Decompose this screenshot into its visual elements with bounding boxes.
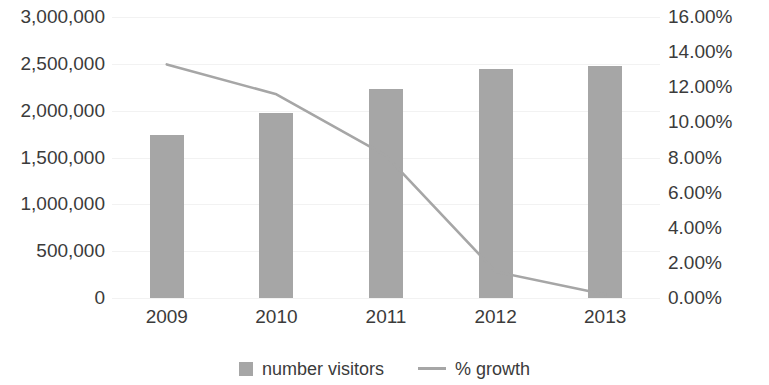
category-tick-label: 2010 xyxy=(216,306,336,328)
legend-label: number visitors xyxy=(262,359,384,379)
category-tick-label: 2011 xyxy=(326,306,446,328)
growth-line-path xyxy=(167,64,605,294)
legend-entry[interactable]: number visitors xyxy=(239,359,384,379)
line-series-percent-growth xyxy=(0,0,769,320)
combo-chart: 3,000,0002,500,0002,000,0001,500,0001,00… xyxy=(0,0,769,385)
legend-label: % growth xyxy=(455,359,530,379)
category-tick-label: 2009 xyxy=(107,306,227,328)
category-tick-label: 2013 xyxy=(545,306,665,328)
plot-area xyxy=(0,0,769,320)
chart-legend: number visitors% growth xyxy=(0,352,769,385)
square-swatch-icon xyxy=(239,362,253,376)
line-swatch-icon xyxy=(418,367,446,370)
category-tick-label: 2012 xyxy=(436,306,556,328)
legend-entry[interactable]: % growth xyxy=(418,359,530,379)
